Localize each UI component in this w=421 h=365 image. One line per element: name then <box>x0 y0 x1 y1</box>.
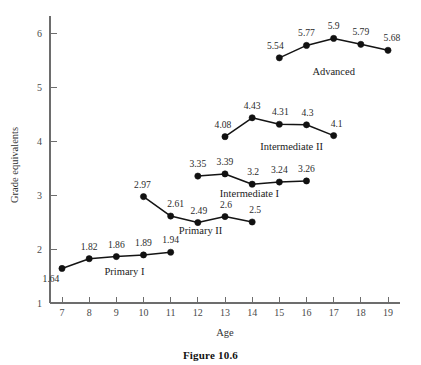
data-point-primary-i-age-10[interactable] <box>140 252 146 258</box>
x-tick-label-14: 14 <box>247 307 257 318</box>
x-tick-label-8: 8 <box>87 307 92 318</box>
data-label-advanced-age-16: 5.77 <box>298 27 315 38</box>
data-point-intermediate-ii-age-16[interactable] <box>303 122 309 128</box>
data-label-primary-ii-age-10: 2.97 <box>134 179 151 190</box>
data-point-advanced-age-15[interactable] <box>276 55 282 61</box>
data-point-intermediate-ii-age-14[interactable] <box>249 115 255 121</box>
y-tick-label-6: 6 <box>37 28 42 39</box>
data-point-advanced-age-16[interactable] <box>303 42 309 48</box>
data-point-intermediate-ii-age-15[interactable] <box>276 121 282 127</box>
data-label-advanced-age-17: 5.9 <box>328 20 340 31</box>
line-chart: 123456 78910111213141516171819 1.641.821… <box>0 0 421 365</box>
data-label-primary-ii-age-13: 2.6 <box>220 199 232 210</box>
series-name-advanced: Advanced <box>312 66 355 77</box>
data-label-primary-i-age-11: 1.94 <box>162 234 179 245</box>
y-tick-label-4: 4 <box>37 136 42 147</box>
data-point-advanced-age-18[interactable] <box>358 41 364 47</box>
data-point-primary-i-age-9[interactable] <box>113 253 119 259</box>
data-label-advanced-age-19: 5.68 <box>384 32 401 43</box>
y-axis-title: Grade equivalents <box>9 127 20 203</box>
data-label-advanced-age-18: 5.79 <box>352 26 369 37</box>
x-tick-label-10: 10 <box>139 307 149 318</box>
data-label-intermediate-i-age-12: 3.35 <box>189 158 206 169</box>
data-label-intermediate-i-age-14: 3.2 <box>247 166 259 177</box>
series-intermediate-ii: 4.084.434.314.34.1Intermediate II <box>215 100 343 152</box>
data-point-primary-ii-age-11[interactable] <box>168 213 174 219</box>
x-tick-label-7: 7 <box>60 307 65 318</box>
x-tick-label-16: 16 <box>302 307 312 318</box>
data-label-intermediate-ii-age-15: 4.31 <box>272 106 289 117</box>
y-tick-label-3: 3 <box>37 190 42 201</box>
figure-caption: Figure 10.6 <box>0 349 421 361</box>
data-label-intermediate-ii-age-14: 4.43 <box>244 100 261 111</box>
data-point-intermediate-i-age-16[interactable] <box>303 178 309 184</box>
data-point-primary-ii-age-14[interactable] <box>249 219 255 225</box>
x-tick-label-18: 18 <box>356 307 366 318</box>
data-label-intermediate-i-age-13: 3.39 <box>217 156 234 167</box>
y-tick-label-2: 2 <box>37 244 42 255</box>
x-axis-ticks: 78910111213141516171819 <box>60 297 394 318</box>
x-axis-title: Age <box>216 327 234 338</box>
series-advanced: 5.545.775.95.795.68Advanced <box>267 20 401 76</box>
data-label-intermediate-ii-age-13: 4.08 <box>215 119 232 130</box>
x-tick-label-15: 15 <box>274 307 284 318</box>
series-name-intermediate-ii: Intermediate II <box>260 141 323 152</box>
data-point-intermediate-i-age-14[interactable] <box>249 181 255 187</box>
data-point-intermediate-i-age-15[interactable] <box>276 179 282 185</box>
series-name-intermediate-i: Intermediate I <box>220 188 280 199</box>
data-label-primary-i-age-9: 1.86 <box>108 239 125 250</box>
series-name-primary-ii: Primary II <box>179 225 223 236</box>
series-intermediate-i: 3.353.393.23.243.26Intermediate I <box>189 156 315 199</box>
data-point-advanced-age-17[interactable] <box>331 35 337 41</box>
y-tick-label-1: 1 <box>37 298 42 309</box>
data-label-primary-i-age-8: 1.82 <box>81 241 98 252</box>
data-label-intermediate-ii-age-16: 4.3 <box>302 107 314 118</box>
y-axis-ticks: 123456 <box>37 28 57 309</box>
data-point-primary-ii-age-10[interactable] <box>140 194 146 200</box>
data-label-primary-i-age-10: 1.89 <box>135 237 152 248</box>
data-point-intermediate-i-age-12[interactable] <box>195 173 201 179</box>
series-name-primary-i: Primary I <box>105 266 145 277</box>
x-tick-label-13: 13 <box>220 307 230 318</box>
figure-container: 123456 78910111213141516171819 1.641.821… <box>0 0 421 365</box>
data-point-primary-i-age-8[interactable] <box>86 256 92 262</box>
data-point-intermediate-i-age-13[interactable] <box>222 171 228 177</box>
series-layer: 1.641.821.861.891.94Primary I2.972.612.4… <box>43 20 401 284</box>
y-tick-label-5: 5 <box>37 82 42 93</box>
data-point-intermediate-ii-age-17[interactable] <box>331 133 337 139</box>
x-tick-label-9: 9 <box>114 307 119 318</box>
data-label-advanced-age-15: 5.54 <box>267 40 284 51</box>
x-tick-label-11: 11 <box>166 307 176 318</box>
data-label-primary-i-age-7: 1.64 <box>43 273 60 284</box>
data-point-intermediate-ii-age-13[interactable] <box>222 134 228 140</box>
data-point-primary-i-age-7[interactable] <box>59 265 65 271</box>
data-label-primary-ii-age-12: 2.49 <box>190 205 207 216</box>
data-label-primary-ii-age-11: 2.61 <box>167 198 184 209</box>
data-point-primary-i-age-11[interactable] <box>168 249 174 255</box>
data-label-intermediate-i-age-15: 3.24 <box>271 164 288 175</box>
x-tick-label-17: 17 <box>329 307 339 318</box>
data-label-primary-ii-age-14: 2.5 <box>249 204 261 215</box>
data-point-advanced-age-19[interactable] <box>385 47 391 53</box>
x-tick-label-19: 19 <box>383 307 393 318</box>
series-primary-i: 1.641.821.861.891.94Primary I <box>43 234 180 284</box>
data-point-primary-ii-age-13[interactable] <box>222 214 228 220</box>
data-label-intermediate-ii-age-17: 4.1 <box>331 118 343 129</box>
x-tick-label-12: 12 <box>193 307 203 318</box>
data-label-intermediate-i-age-16: 3.26 <box>298 163 315 174</box>
